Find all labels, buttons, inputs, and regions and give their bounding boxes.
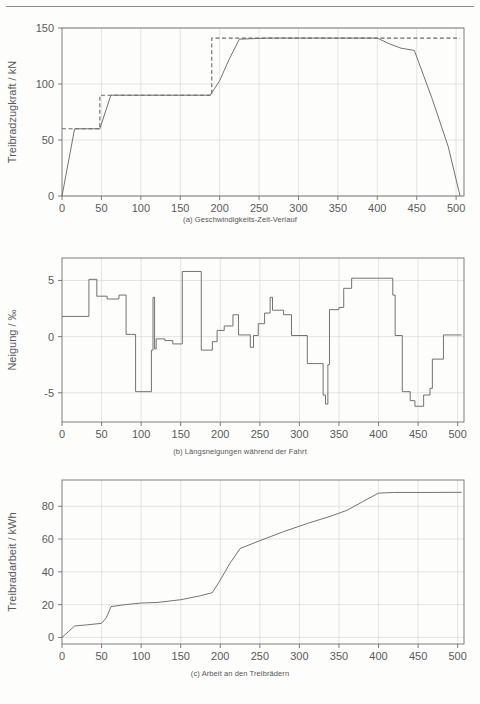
chart-c-xtick-400: 400 — [369, 650, 387, 662]
chart-b-plot: 050100150200250300350400450500-505Zeit /… — [0, 250, 480, 446]
chart-a-xtick-250: 250 — [250, 202, 268, 214]
chart-c-xtick-200: 200 — [211, 650, 229, 662]
chart-b-caption: (b) Längsneigungen während der Fahrt — [0, 447, 480, 456]
chart-b-ytick-5: 5 — [48, 274, 54, 286]
page-top-rule — [6, 6, 474, 7]
chart-c-xtick-150: 150 — [172, 650, 190, 662]
chart-b-xtick-0: 0 — [59, 428, 65, 440]
chart-a-series-1 — [62, 38, 460, 129]
chart-a-xtick-50: 50 — [95, 202, 107, 214]
chart-b-xtick-250: 250 — [251, 428, 269, 440]
chart-a-gridlines — [62, 28, 464, 196]
chart-c-ylabel: Treibradarbeit / kWh — [6, 512, 18, 611]
chart-b-ytick--5: -5 — [44, 387, 54, 399]
chart-b-xtick-400: 400 — [369, 428, 387, 440]
chart-c-ytick-80: 80 — [42, 500, 54, 512]
chart-c-ytick-20: 20 — [42, 599, 54, 611]
chart-a-ytick-0: 0 — [48, 190, 54, 202]
chart-a-xtick-500: 500 — [447, 202, 465, 214]
chart-c-xtick-450: 450 — [409, 650, 427, 662]
chart-c-xtick-50: 50 — [95, 650, 107, 662]
chart-a-xtick-200: 200 — [210, 202, 228, 214]
chart-a-xtick-0: 0 — [59, 202, 65, 214]
chart-a-xtick-400: 400 — [368, 202, 386, 214]
chart-b-series-0 — [62, 271, 462, 406]
chart-a-plot: 050100150200250300350400450500050100150G… — [0, 14, 480, 214]
chart-b-xtick-150: 150 — [172, 428, 190, 440]
chart-b-xtick-500: 500 — [448, 428, 466, 440]
chart-c-ytick-60: 60 — [42, 533, 54, 545]
chart-c-xlabel: Zeit / s — [246, 667, 280, 668]
chart-a-xtick-100: 100 — [132, 202, 150, 214]
chart-b-xtick-50: 50 — [95, 428, 107, 440]
chart-a-xtick-300: 300 — [289, 202, 307, 214]
chart-c-plot: 050100150200250300350400450500020406080Z… — [0, 472, 480, 668]
chart-c-ytick-40: 40 — [42, 566, 54, 578]
figure-panel-a: 050100150200250300350400450500050100150G… — [0, 14, 480, 246]
chart-b-frame — [62, 258, 464, 422]
chart-a-frame — [62, 28, 464, 196]
chart-a-ytick-100: 100 — [36, 78, 54, 90]
chart-b-xtick-350: 350 — [330, 428, 348, 440]
chart-c-frame — [62, 480, 464, 644]
chart-a-ytick-150: 150 — [36, 22, 54, 34]
figure-panel-b: 050100150200250300350400450500-505Zeit /… — [0, 250, 480, 478]
chart-a-xtick-350: 350 — [329, 202, 347, 214]
chart-b-xtick-450: 450 — [409, 428, 427, 440]
chart-b-xtick-100: 100 — [132, 428, 150, 440]
chart-a-series-0 — [62, 38, 460, 196]
chart-b-ylabel: Neigung / ‰ — [6, 309, 18, 370]
chart-c-xtick-250: 250 — [251, 650, 269, 662]
chart-c-caption: (c) Arbeit an den Treibrädern — [0, 669, 480, 678]
chart-a-xtick-150: 150 — [171, 202, 189, 214]
chart-b-xtick-300: 300 — [290, 428, 308, 440]
chart-b-xlabel: Zeit / s — [246, 445, 280, 446]
figure-page: 050100150200250300350400450500050100150G… — [0, 0, 480, 704]
chart-a-ylabel: Treibradzugkraft / kN — [6, 61, 18, 163]
chart-b-ytick-0: 0 — [48, 331, 54, 343]
chart-c-xtick-500: 500 — [448, 650, 466, 662]
chart-c-xtick-350: 350 — [330, 650, 348, 662]
chart-a-caption: (a) Geschwindigkeits-Zeit-Verlauf — [0, 215, 480, 224]
chart-c-xtick-300: 300 — [290, 650, 308, 662]
chart-b-xtick-200: 200 — [211, 428, 229, 440]
figure-panel-c: 050100150200250300350400450500020406080Z… — [0, 472, 480, 698]
chart-c-gridlines — [62, 480, 464, 644]
chart-a-ytick-50: 50 — [42, 134, 54, 146]
chart-b: 050100150200250300350400450500-505Zeit /… — [0, 250, 480, 446]
chart-c-series-0 — [62, 492, 462, 637]
chart-c-xtick-0: 0 — [59, 650, 65, 662]
chart-c: 050100150200250300350400450500020406080Z… — [0, 472, 480, 668]
chart-c-xtick-100: 100 — [132, 650, 150, 662]
chart-c-ytick-0: 0 — [48, 631, 54, 643]
chart-b-gridlines — [62, 258, 464, 422]
chart-a: 050100150200250300350400450500050100150G… — [0, 14, 480, 214]
chart-a-xtick-450: 450 — [408, 202, 426, 214]
